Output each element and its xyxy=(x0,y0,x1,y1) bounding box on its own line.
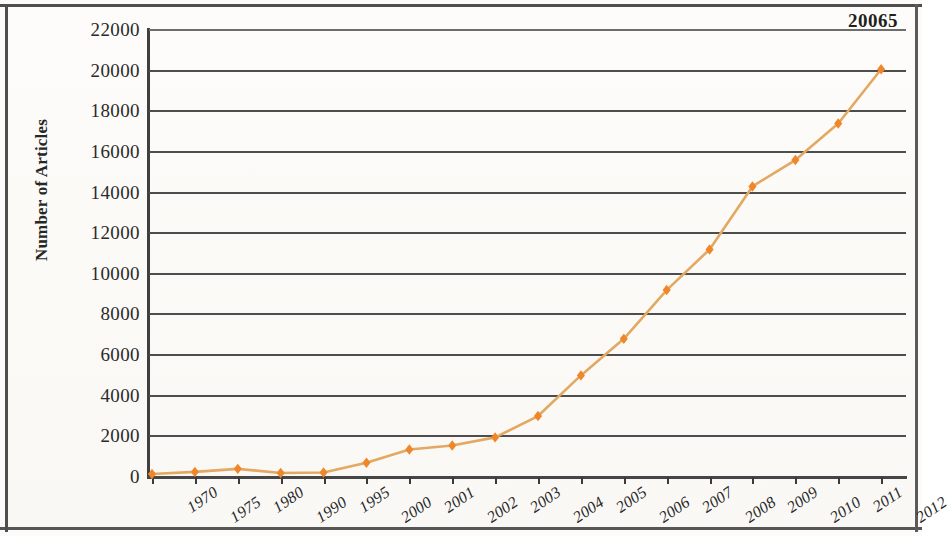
x-tick-label-2000: 2000 xyxy=(398,493,436,526)
data-point-2002 xyxy=(448,440,456,450)
y-tick-label-16000: 16000 xyxy=(91,141,141,163)
x-tick-label-1990: 1990 xyxy=(312,493,350,526)
y-tick-label-14000: 14000 xyxy=(91,182,141,204)
x-axis-tick-labels: 1970197519801990199520002001200220032004… xyxy=(149,479,909,536)
y-tick-label-0: 0 xyxy=(130,466,140,488)
y-tick-label-4000: 4000 xyxy=(100,385,140,407)
data-point-2003 xyxy=(491,432,499,442)
y-tick-label-10000: 10000 xyxy=(91,263,141,285)
y-tick-label-8000: 8000 xyxy=(100,303,140,325)
y-tick-label-6000: 6000 xyxy=(100,344,140,366)
x-tick-label-2001: 2001 xyxy=(441,483,479,516)
x-tick-label-2004: 2004 xyxy=(570,493,608,526)
y-axis-tick-labels: 0200040006000800010000120001400016000180… xyxy=(38,0,140,536)
y-tick-label-12000: 12000 xyxy=(91,222,141,244)
plot-area xyxy=(149,30,906,477)
series-markers xyxy=(148,64,885,479)
x-tick-label-1975: 1975 xyxy=(227,493,265,526)
data-point-1995 xyxy=(320,467,328,477)
data-point-2000 xyxy=(362,458,370,468)
data-point-1980 xyxy=(234,464,242,474)
x-tick-label-2007: 2007 xyxy=(698,483,736,516)
y-tick-label-2000: 2000 xyxy=(100,425,140,447)
x-tick-label-1970: 1970 xyxy=(184,483,222,516)
x-tick-label-2009: 2009 xyxy=(784,483,822,516)
y-tick-label-18000: 18000 xyxy=(91,100,141,122)
x-tick-label-2008: 2008 xyxy=(741,493,779,526)
y-tick-label-22000: 22000 xyxy=(91,19,141,41)
x-tick-label-2006: 2006 xyxy=(655,493,693,526)
data-point-2001 xyxy=(405,444,413,454)
data-point-1990 xyxy=(277,468,285,478)
x-tick-label-2003: 2003 xyxy=(527,483,565,516)
data-point-1975 xyxy=(191,467,199,477)
x-tick-label-2012: 2012 xyxy=(913,493,950,526)
x-tick-label-2002: 2002 xyxy=(484,493,522,526)
page-border-right xyxy=(915,4,918,532)
x-tick-label-2010: 2010 xyxy=(827,493,865,526)
series-polyline xyxy=(152,69,881,474)
y-tick-label-20000: 20000 xyxy=(91,60,141,82)
x-tick-label-1995: 1995 xyxy=(355,483,393,516)
data-series-line xyxy=(149,30,906,477)
page-border-left xyxy=(5,4,8,532)
data-label-2012: 20065 xyxy=(848,10,898,32)
x-tick-label-2011: 2011 xyxy=(870,483,907,516)
x-tick-label-2005: 2005 xyxy=(613,483,651,516)
x-tick-label-1980: 1980 xyxy=(269,483,307,516)
